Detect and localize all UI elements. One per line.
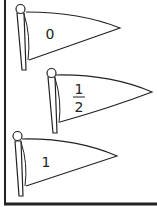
- pole-half: [48, 77, 57, 133]
- flag-1: 1: [13, 132, 117, 197]
- pole-ball-1: [13, 132, 22, 141]
- pennant-0: [26, 12, 120, 60]
- pole-ball-0: [16, 5, 25, 14]
- flag-numerator-half: 1: [75, 81, 84, 97]
- pole-ball-half: [47, 69, 56, 78]
- flag-0: 0: [16, 5, 120, 71]
- pole-1: [15, 141, 23, 196]
- pennant-1: [22, 139, 117, 186]
- flag-label-0: 0: [46, 26, 55, 42]
- flag-label-1: 1: [42, 154, 51, 170]
- pole-0: [17, 13, 26, 70]
- pennant-half: [56, 75, 152, 122]
- pennant-flags-worksheet: 0 1 2 1: [0, 0, 157, 207]
- flag-half: 1 2: [47, 69, 152, 134]
- flag-denominator-half: 2: [75, 99, 84, 115]
